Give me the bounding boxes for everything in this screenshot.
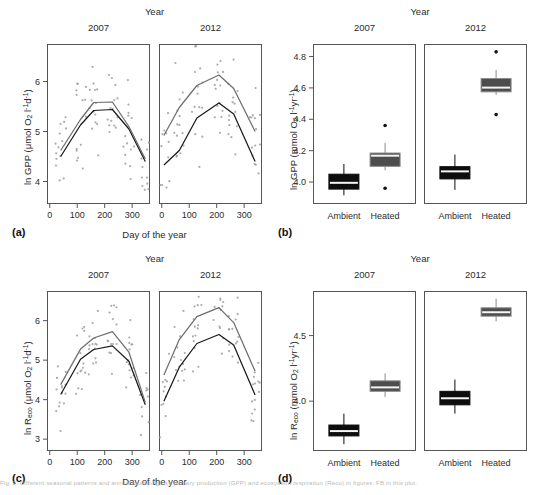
panel-d-ylabel: ln Reco (mmol O2 l-1yr-1) [288,341,299,440]
x-tick-label-ambient: Ambient [327,458,361,468]
panel-d-data-layer: 4.04.5AmbientHeatedAmbientHeated [0,0,534,495]
y-tick-label: 4.5 [293,331,306,341]
x-tick-label-heated: Heated [371,458,400,468]
x-tick-label-ambient: Ambient [438,458,472,468]
box-heated-2007 [370,381,400,391]
figure-caption: Fig. 2. Different seasonal patterns and … [0,480,534,495]
x-tick-label-heated: Heated [482,458,511,468]
